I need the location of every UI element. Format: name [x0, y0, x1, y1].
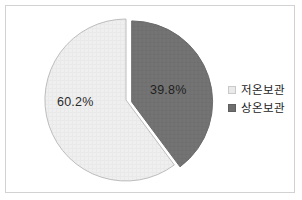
legend-swatch-icon-room-temp — [228, 104, 236, 112]
legend-label-low-temp: 저온보관 — [241, 84, 285, 96]
legend-item-low-temp[interactable]: 저온보관 — [228, 82, 294, 98]
slice-value-label-room-temp: 39.8% — [150, 83, 186, 97]
slice-value-label-low-temp: 60.2% — [57, 95, 93, 109]
legend-swatch-icon-low-temp — [228, 86, 236, 94]
legend-label-room-temp: 상온보관 — [241, 102, 285, 114]
chart-legend: 저온보관 상온보관 — [228, 82, 294, 118]
legend-item-room-temp[interactable]: 상온보관 — [228, 100, 294, 116]
pie-chart-figure: 39.8% 60.2% 저온보관 상온보관 — [0, 0, 302, 200]
